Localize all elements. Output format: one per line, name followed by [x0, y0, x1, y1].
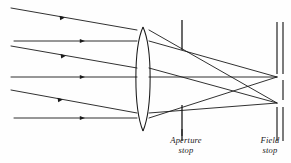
axial-incoming-rays — [11, 41, 137, 118]
lens-back-surface — [143, 27, 150, 131]
arrowhead-oblique-1 — [60, 16, 65, 21]
field-stop-label: Field stop — [249, 136, 291, 156]
aperture-stop-label: Aperture stop — [150, 136, 222, 156]
field-stop — [277, 22, 283, 141]
lens-front-surface — [136, 27, 143, 131]
oblique-ray-2-incoming — [11, 46, 137, 68]
axial-refracted-rays — [149, 41, 277, 118]
oblique-ray-3-incoming — [11, 90, 137, 113]
ray-direction-arrowheads — [58, 16, 85, 120]
arrowhead-axial-2 — [80, 75, 85, 79]
oblique-ray-1-incoming — [11, 8, 137, 30]
oblique-ray-3-refracted — [149, 103, 277, 113]
axial-ray-1-refracted — [149, 41, 277, 77]
arrowhead-axial-1 — [80, 39, 85, 43]
arrowhead-oblique-3 — [58, 98, 63, 103]
arrowhead-axial-3 — [80, 116, 85, 120]
ray-diagram-canvas — [0, 0, 291, 163]
oblique-ray-1-refracted — [149, 30, 277, 103]
biconvex-lens — [136, 27, 150, 131]
optical-diagram-figure: Aperture stop Field stop — [0, 0, 291, 163]
oblique-incoming-rays — [11, 8, 137, 113]
